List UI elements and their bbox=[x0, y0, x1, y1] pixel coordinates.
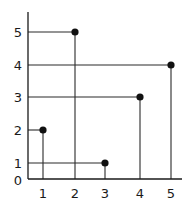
x-tick-labels: 12345 bbox=[39, 186, 175, 201]
data-point bbox=[71, 28, 78, 35]
data-point bbox=[136, 93, 143, 100]
x-tick-label: 5 bbox=[167, 186, 175, 201]
drop-lines bbox=[28, 32, 171, 179]
y-tick-label: 0 bbox=[14, 173, 22, 188]
data-point bbox=[101, 159, 108, 166]
data-point bbox=[167, 61, 174, 68]
data-point bbox=[39, 126, 46, 133]
x-tick-label: 3 bbox=[101, 186, 109, 201]
y-tick-labels: 012345 bbox=[14, 25, 22, 188]
y-tick-label: 1 bbox=[14, 156, 22, 171]
y-tick-label: 5 bbox=[14, 25, 22, 40]
y-tick-label: 2 bbox=[14, 123, 22, 138]
x-tick-label: 2 bbox=[71, 186, 79, 201]
y-tick-label: 3 bbox=[14, 90, 22, 105]
x-tick-label: 1 bbox=[39, 186, 47, 201]
y-tick-label: 4 bbox=[14, 58, 22, 73]
x-tick-label: 4 bbox=[136, 186, 144, 201]
scatter-chart: 12345 012345 bbox=[0, 0, 190, 208]
